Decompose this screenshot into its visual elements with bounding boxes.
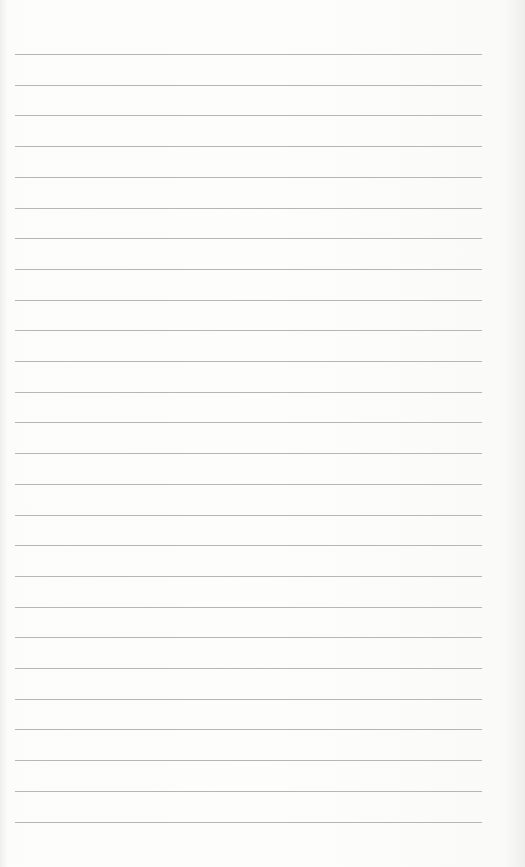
ruled-line [15, 238, 482, 239]
ruled-line [15, 515, 482, 516]
ruled-line [15, 330, 482, 331]
ruled-line [15, 822, 482, 823]
ruled-line [15, 668, 482, 669]
ruled-line [15, 422, 482, 423]
ruled-line [15, 729, 482, 730]
ruled-line [15, 760, 482, 761]
ruled-line [15, 484, 482, 485]
ruled-line [15, 54, 482, 55]
ruled-line [15, 545, 482, 546]
ruled-line [15, 699, 482, 700]
ruled-line [15, 576, 482, 577]
ruled-line [15, 637, 482, 638]
ruled-line [15, 453, 482, 454]
ruled-line [15, 269, 482, 270]
ruled-line [15, 85, 482, 86]
ruled-line [15, 791, 482, 792]
ruled-line [15, 115, 482, 116]
ruled-line [15, 177, 482, 178]
ruled-line [15, 361, 482, 362]
ruled-line [15, 208, 482, 209]
ruled-line [15, 300, 482, 301]
ruled-line [15, 146, 482, 147]
lined-paper-sheet [0, 0, 525, 867]
ruled-line [15, 392, 482, 393]
ruled-line [15, 607, 482, 608]
